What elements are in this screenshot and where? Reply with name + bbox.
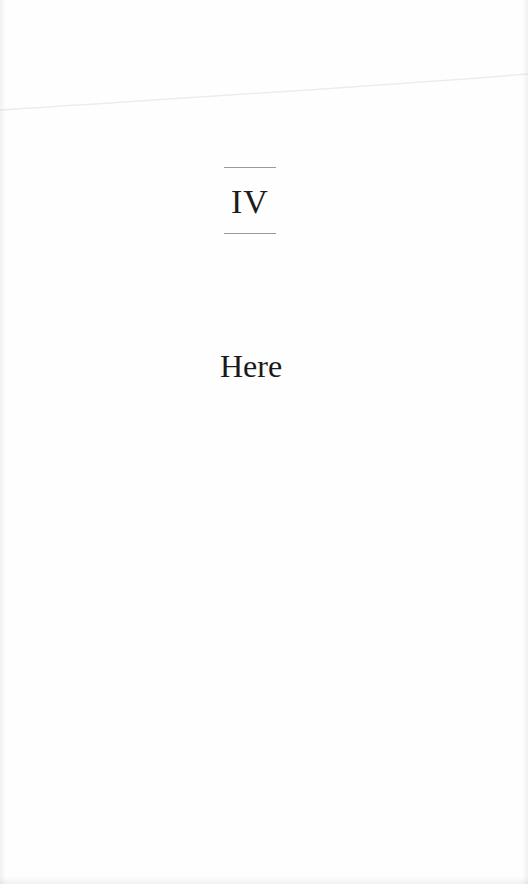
chapter-number: IV — [0, 182, 500, 222]
chapter-rule-bottom — [224, 233, 276, 234]
page-edge-right — [522, 0, 528, 884]
chapter-title: Here — [0, 346, 502, 386]
page-edge-left — [0, 0, 6, 884]
paper-crease — [0, 0, 528, 130]
book-page: IV Here — [0, 0, 528, 884]
page-edge-bottom — [0, 876, 528, 884]
chapter-rule-top — [224, 167, 276, 168]
